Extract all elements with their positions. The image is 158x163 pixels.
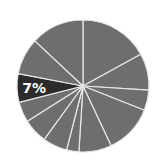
slice-percent-label: 7% (22, 80, 46, 96)
pie-chart: 7% (0, 0, 158, 163)
pie-labels: 7% (22, 80, 46, 96)
